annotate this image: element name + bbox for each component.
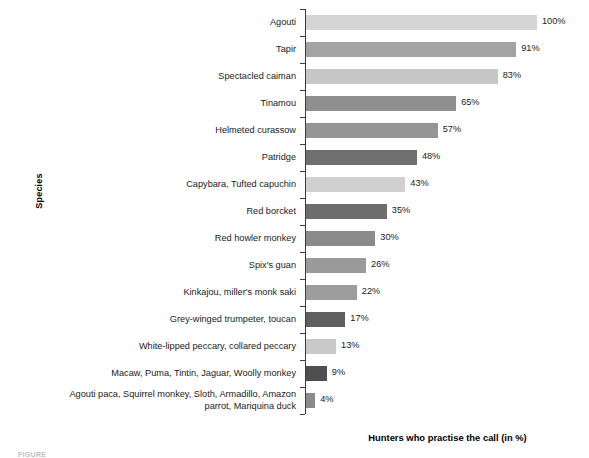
- bar: [306, 231, 375, 246]
- axis-tick: [300, 171, 305, 172]
- bar-value-label: 9%: [332, 367, 345, 377]
- axis-tick: [300, 306, 305, 307]
- bar-value-label: 26%: [371, 259, 389, 269]
- axis-tick: [300, 387, 305, 388]
- axis-tick: [300, 9, 305, 10]
- category-label: Helmeted curassow: [16, 125, 296, 137]
- bar-value-label: 100%: [542, 16, 566, 26]
- axis-tick: [300, 63, 305, 64]
- bar-value-label: 91%: [521, 43, 539, 53]
- axis-tick: [300, 279, 305, 280]
- category-label: Kinkajou, miller's monk saki: [16, 287, 296, 299]
- bar: [306, 204, 387, 219]
- axis-tick: [300, 252, 305, 253]
- bar: [306, 15, 537, 30]
- axis-tick: [300, 144, 305, 145]
- category-label: Spectacled caiman: [16, 71, 296, 83]
- bar: [306, 177, 405, 192]
- category-label: Tapir: [16, 44, 296, 56]
- bar-value-label: 30%: [380, 232, 398, 242]
- bar-value-label: 17%: [350, 313, 368, 323]
- bar: [306, 258, 366, 273]
- bar: [306, 285, 357, 300]
- category-label: Red borcket: [16, 206, 296, 218]
- bar-value-label: 4%: [320, 394, 333, 404]
- bar: [306, 96, 456, 111]
- bar-value-label: 35%: [392, 205, 410, 215]
- bar-value-label: 65%: [461, 97, 479, 107]
- category-label: Tinamou: [16, 98, 296, 110]
- bar-value-label: 22%: [362, 286, 380, 296]
- axis-tick: [300, 333, 305, 334]
- axis-tick: [300, 360, 305, 361]
- category-label: White-lipped peccary, collared peccary: [16, 341, 296, 353]
- plot-area: Agouti100%Tapir91%Spectacled caiman83%Ti…: [0, 8, 589, 423]
- bar: [306, 42, 516, 57]
- bar: [306, 69, 498, 84]
- axis-tick: [300, 36, 305, 37]
- axis-tick: [300, 414, 305, 415]
- bar-chart: Species Agouti100%Tapir91%Spectacled cai…: [0, 0, 589, 458]
- bar-value-label: 57%: [443, 124, 461, 134]
- axis-tick: [300, 117, 305, 118]
- category-label: Spix's guan: [16, 260, 296, 272]
- figure-caption: FIGURE: [18, 451, 46, 458]
- axis-tick: [300, 198, 305, 199]
- bar: [306, 393, 315, 408]
- bar-value-label: 43%: [410, 178, 428, 188]
- axis-tick: [300, 225, 305, 226]
- category-label: Red howler monkey: [16, 233, 296, 245]
- category-label: Patridge: [16, 152, 296, 164]
- bar: [306, 339, 336, 354]
- axis-tick: [300, 90, 305, 91]
- category-label: Agouti paca, Squirrel monkey, Sloth, Arm…: [16, 389, 296, 412]
- bar: [306, 366, 327, 381]
- category-label: Agouti: [16, 17, 296, 29]
- x-axis-title: Hunters who practise the call (in %): [306, 432, 589, 443]
- category-label: Macaw, Puma, Tintin, Jaguar, Woolly monk…: [16, 368, 296, 380]
- category-label: Capybara, Tufted capuchin: [16, 179, 296, 191]
- bar: [306, 123, 438, 138]
- bar: [306, 150, 417, 165]
- bar: [306, 312, 345, 327]
- category-label: Grey-winged trumpeter, toucan: [16, 314, 296, 326]
- bar-value-label: 83%: [503, 70, 521, 80]
- bar-value-label: 13%: [341, 340, 359, 350]
- bar-value-label: 48%: [422, 151, 440, 161]
